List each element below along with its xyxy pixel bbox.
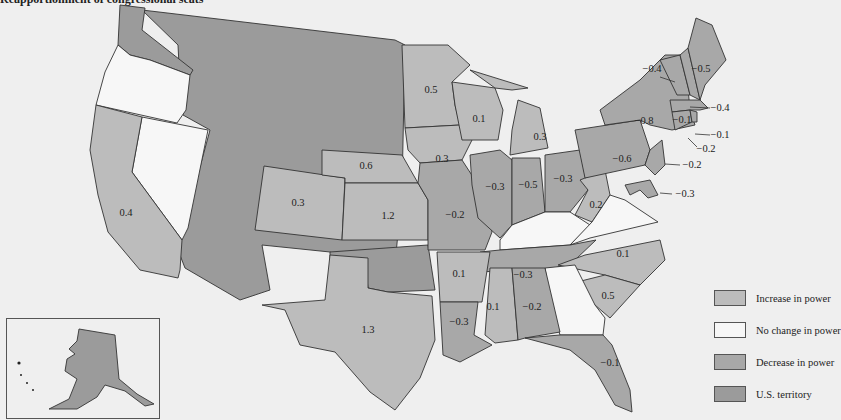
legend-label: Decrease in power <box>756 357 834 368</box>
legend-item-territory: U.S. territory <box>714 378 841 410</box>
label-ME: −0.5 <box>691 63 710 74</box>
label-MI: 0.3 <box>533 131 546 142</box>
label-MO: −0.2 <box>445 209 464 220</box>
legend-label: U.S. territory <box>756 389 812 400</box>
label-MN: 0.5 <box>424 84 437 95</box>
swatch-increase <box>714 290 746 306</box>
label-OH: −0.3 <box>553 173 572 184</box>
label-MA: −0.1 <box>672 114 691 125</box>
label-FL: −0.1 <box>600 357 619 368</box>
label-AL: −0.2 <box>522 301 541 312</box>
label-KS: 1.2 <box>381 210 394 221</box>
state-AK <box>49 329 154 409</box>
label-NE: 0.6 <box>359 160 372 171</box>
legend-item-increase: Increase in power <box>714 282 841 314</box>
label-DE: −0.3 <box>675 188 694 199</box>
swatch-territory <box>714 386 746 402</box>
state-FL <box>525 335 632 412</box>
alaska-inset <box>6 318 160 419</box>
legend-label: No change in power <box>756 325 841 336</box>
label-NJ: −0.2 <box>682 159 701 170</box>
legend: Increase in power No change in power Dec… <box>714 282 841 410</box>
label-IL: −0.3 <box>485 181 504 192</box>
legend-item-no-change: No change in power <box>714 314 841 346</box>
swatch-decrease <box>714 354 746 370</box>
label-NY: −0.8 <box>634 115 653 126</box>
legend-item-decrease: Decrease in power <box>714 346 841 378</box>
state-PA <box>575 120 650 178</box>
label-AR: 0.1 <box>452 268 465 279</box>
label-NC: 0.1 <box>616 248 629 259</box>
label-SC: 0.5 <box>601 290 614 301</box>
label-CO: 0.3 <box>291 197 304 208</box>
label-RI: −0.1 <box>710 129 729 140</box>
label-IA: 0.3 <box>435 153 448 164</box>
label-IN: −0.5 <box>518 179 537 190</box>
label-MS: 0.1 <box>486 301 499 312</box>
label-PA: −0.6 <box>612 153 631 164</box>
label-WI: 0.1 <box>472 113 485 124</box>
state-LA <box>440 302 492 362</box>
label-TX: 1.3 <box>361 324 374 335</box>
state-DE <box>625 180 658 198</box>
legend-label: Increase in power <box>756 293 831 304</box>
label-WV: 0.2 <box>589 199 602 210</box>
label-CA: 0.4 <box>119 207 133 218</box>
swatch-no-change <box>714 322 746 338</box>
label-NH: −0.4 <box>710 102 730 113</box>
label-LA: −0.3 <box>449 316 468 327</box>
label-VT: −0.4 <box>642 63 662 74</box>
label-TN: −0.3 <box>513 269 532 280</box>
label-CT: −0.2 <box>696 143 715 154</box>
